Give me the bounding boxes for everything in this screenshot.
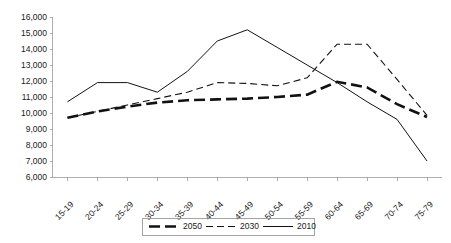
legend-label-2050: 2050	[183, 221, 202, 231]
y-axis-tick-marks	[50, 17, 53, 177]
y-axis-tick-label: 14,000	[21, 44, 47, 54]
y-axis-tick-labels: 16,00015,00014,00013,00012,00011,00010,0…	[21, 12, 47, 182]
y-axis-tick-label: 13,000	[21, 60, 47, 70]
chart-container: 16,00015,00014,00013,00012,00011,00010,0…	[0, 0, 451, 243]
y-axis-tick-label: 12,000	[21, 76, 47, 86]
x-axis-tick-label: 15-19	[53, 199, 76, 222]
legend-label-2010: 2010	[297, 221, 316, 231]
series-line-2030	[67, 44, 427, 118]
x-axis-tick-label: 65-69	[353, 199, 376, 222]
x-axis-tick-label: 75-79	[412, 199, 435, 222]
y-axis-tick-label: 7,000	[26, 156, 48, 166]
y-axis-tick-label: 16,000	[21, 12, 47, 22]
legend-label-2030: 2030	[240, 221, 259, 231]
x-axis-tick-marks	[67, 177, 427, 181]
y-axis-tick-label: 9,000	[26, 124, 48, 134]
chart-legend: 205020302010	[143, 219, 317, 236]
y-axis-tick-label: 8,000	[26, 140, 48, 150]
y-axis-tick-label: 10,000	[21, 108, 47, 118]
y-axis-tick-label: 11,000	[22, 92, 48, 102]
series-line-2010	[67, 30, 427, 161]
x-axis-tick-label: 25-29	[113, 199, 136, 222]
line-chart: 16,00015,00014,00013,00012,00011,00010,0…	[0, 0, 451, 243]
x-axis-tick-label: 70-74	[383, 199, 406, 222]
series-line-2050	[67, 82, 427, 118]
data-series-group	[67, 30, 427, 161]
x-axis-tick-label: 20-24	[83, 199, 106, 222]
x-axis-tick-label: 60-64	[323, 199, 346, 222]
y-axis-tick-label: 15,000	[21, 28, 47, 38]
y-axis-tick-label: 6,000	[26, 172, 48, 182]
